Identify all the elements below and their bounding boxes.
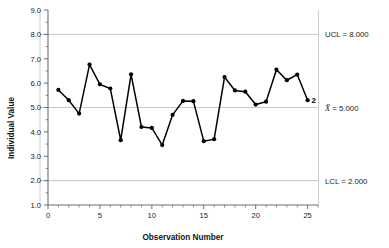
control-chart: Individual Value Observation Number UCL … [0, 0, 389, 248]
data-point [67, 98, 71, 102]
data-point [150, 126, 154, 130]
data-point [254, 102, 258, 106]
data-point [191, 99, 195, 103]
data-point [264, 100, 268, 104]
data-point [285, 78, 289, 82]
series-polyline [58, 65, 307, 145]
data-point [243, 90, 247, 94]
data-point [202, 139, 206, 143]
data-point [77, 111, 81, 115]
data-point [233, 88, 237, 92]
data-point [171, 113, 175, 117]
data-point [160, 143, 164, 147]
data-point [129, 72, 133, 76]
data-point [181, 99, 185, 103]
data-point [108, 86, 112, 90]
chart-canvas [0, 0, 389, 248]
data-point [306, 98, 310, 102]
data-point [295, 72, 299, 76]
data-point [222, 75, 226, 79]
data-point [87, 63, 91, 67]
data-point [119, 138, 123, 142]
data-point [98, 82, 102, 86]
data-point [212, 137, 216, 141]
data-point [139, 125, 143, 129]
data-point [56, 88, 60, 92]
data-point [274, 68, 278, 72]
